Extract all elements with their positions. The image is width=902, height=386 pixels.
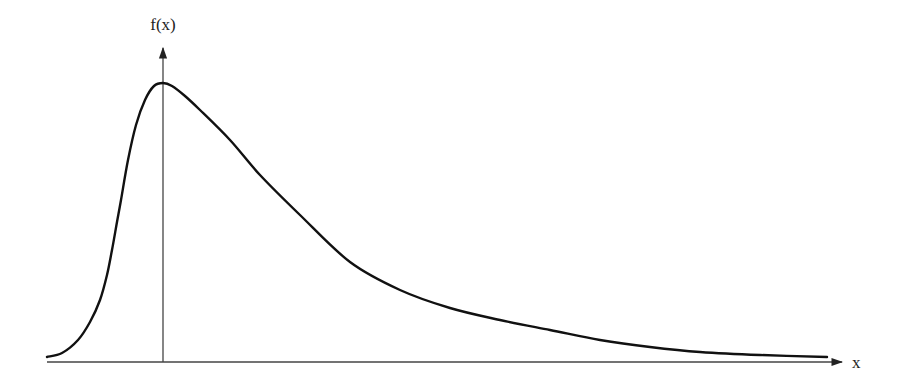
x-axis-label: x (852, 353, 861, 372)
y-axis-label: f(x) (150, 15, 175, 34)
density-curve (47, 83, 827, 357)
density-chart: f(x) x (0, 0, 902, 386)
